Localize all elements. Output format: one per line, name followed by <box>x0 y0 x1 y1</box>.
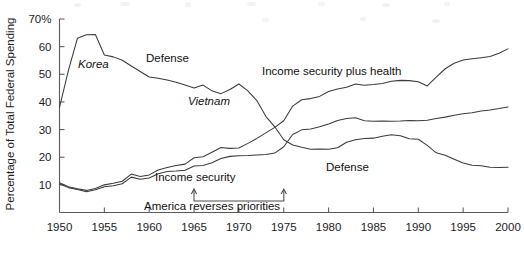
inline-annotations: KoreaDefenseVietnamIncome security plus … <box>78 52 401 212</box>
y-tick-label-60: 60 <box>39 41 52 53</box>
x-axis-tick-labels: 1950195519601965197019751980198519901995… <box>47 221 521 233</box>
y-axis-title: Percentage of Total Federal Spending <box>4 18 16 211</box>
y-tick-label-50: 50 <box>39 68 52 80</box>
x-tick-label-2000: 2000 <box>495 221 521 233</box>
y-tick-label-20: 20 <box>39 151 52 163</box>
y-axis-tick-labels: 70%605040302010 <box>28 13 51 191</box>
annotation-defense-upper: Defense <box>146 52 189 64</box>
data-series-group <box>60 34 509 191</box>
x-tick-label-1960: 1960 <box>136 221 162 233</box>
spending-line-chart: Percentage of Total Federal Spending 70%… <box>0 0 524 254</box>
x-tick-label-1970: 1970 <box>226 221 252 233</box>
x-axis-ticks <box>60 208 509 213</box>
x-tick-label-1975: 1975 <box>271 221 297 233</box>
x-tick-label-1990: 1990 <box>406 221 432 233</box>
y-tick-label-40: 40 <box>39 96 52 108</box>
x-tick-label-1980: 1980 <box>316 221 342 233</box>
annotation-vietnam: Vietnam <box>188 95 230 107</box>
x-tick-label-1955: 1955 <box>92 221 118 233</box>
series-line-income-security <box>60 107 509 192</box>
chart-figure: Percentage of Total Federal Spending 70%… <box>0 0 524 254</box>
x-tick-label-1985: 1985 <box>361 221 387 233</box>
x-tick-label-1995: 1995 <box>450 221 476 233</box>
annotation-america-reverses-priorities: America reverses priorities <box>144 200 280 212</box>
y-tick-label-10: 10 <box>39 179 52 191</box>
annotation-income-security: Income security <box>155 171 236 183</box>
annotation-defense-lower: Defense <box>326 161 369 173</box>
y-tick-label-30: 30 <box>39 124 52 136</box>
series-line-defense <box>60 34 509 167</box>
y-tick-label-70: 70% <box>28 13 51 25</box>
x-tick-label-1965: 1965 <box>181 221 207 233</box>
annotation-korea: Korea <box>78 58 109 70</box>
y-axis-ticks <box>60 19 65 185</box>
x-tick-label-1950: 1950 <box>47 221 73 233</box>
annotation-income-security-plus-health: Income security plus health <box>262 65 401 77</box>
